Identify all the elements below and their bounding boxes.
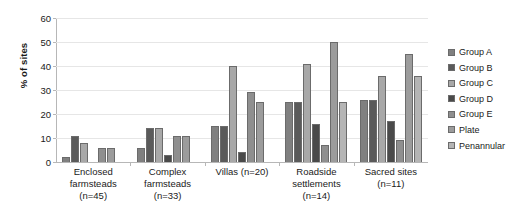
legend-item[interactable]: Group C bbox=[448, 78, 505, 88]
legend-item[interactable]: Group B bbox=[448, 63, 505, 73]
legend-swatch-icon bbox=[448, 64, 455, 71]
bar bbox=[330, 42, 338, 162]
bar bbox=[155, 128, 163, 162]
legend-label: Group A bbox=[459, 47, 492, 57]
bar bbox=[369, 100, 377, 162]
legend-swatch-icon bbox=[448, 142, 455, 149]
bar bbox=[137, 148, 145, 162]
legend: Group AGroup BGroup CGroup DGroup EPlate… bbox=[448, 47, 505, 151]
bar bbox=[220, 126, 228, 162]
legend-swatch-icon bbox=[448, 49, 455, 56]
bar bbox=[405, 54, 413, 162]
bar-group bbox=[130, 18, 204, 162]
y-tick-label: 30 bbox=[40, 85, 51, 96]
bar bbox=[256, 102, 264, 162]
legend-item[interactable]: Group E bbox=[448, 109, 505, 119]
bar bbox=[107, 148, 115, 162]
legend-swatch-icon bbox=[448, 95, 455, 102]
x-axis-label-line: (n=14) bbox=[279, 190, 353, 202]
bar bbox=[71, 136, 79, 162]
bar-chart: % of sites 0102030405060 Enclosedfarmste… bbox=[0, 0, 532, 223]
legend-label: Plate bbox=[459, 125, 480, 135]
y-tick-label: 20 bbox=[40, 109, 51, 120]
bar-groups bbox=[56, 18, 428, 162]
x-axis-label: Complexfarmsteads(n=33) bbox=[130, 166, 204, 202]
bar bbox=[294, 102, 302, 162]
bar bbox=[238, 152, 246, 162]
x-axis-label-line: farmsteads bbox=[56, 178, 130, 190]
legend-item[interactable]: Penannular bbox=[448, 141, 505, 151]
x-axis-label-line: Villas (n=20) bbox=[205, 166, 279, 178]
legend-swatch-icon bbox=[448, 80, 455, 87]
legend-swatch-icon bbox=[448, 126, 455, 133]
bar bbox=[303, 64, 311, 162]
y-axis-title: % of sites bbox=[18, 21, 29, 111]
y-tick-mark bbox=[53, 162, 56, 163]
bar bbox=[378, 76, 386, 162]
bar bbox=[229, 66, 237, 162]
legend-label: Group E bbox=[459, 109, 493, 119]
y-tick-label: 40 bbox=[40, 61, 51, 72]
y-tick-label: 10 bbox=[40, 133, 51, 144]
x-axis-labels: Enclosedfarmsteads(n=45)Complexfarmstead… bbox=[56, 166, 428, 202]
bar bbox=[285, 102, 293, 162]
bar-group bbox=[279, 18, 353, 162]
bar bbox=[173, 136, 181, 162]
bar-group bbox=[354, 18, 428, 162]
x-axis-label-line: (n=33) bbox=[130, 190, 204, 202]
bar bbox=[80, 143, 88, 162]
plot-area: 0102030405060 bbox=[56, 18, 428, 162]
y-tick-label: 50 bbox=[40, 37, 51, 48]
x-axis-label: Sacred sites(n=11) bbox=[354, 166, 428, 202]
bar bbox=[414, 76, 422, 162]
x-axis-label-line: Enclosed bbox=[56, 166, 130, 178]
bar bbox=[360, 100, 368, 162]
x-axis-label-line: settlements bbox=[279, 178, 353, 190]
bar bbox=[247, 92, 255, 162]
bar bbox=[146, 128, 154, 162]
bar-group bbox=[205, 18, 279, 162]
bar-group bbox=[56, 18, 130, 162]
bar bbox=[387, 121, 395, 162]
legend-label: Group C bbox=[459, 78, 493, 88]
x-axis-label-line: farmsteads bbox=[130, 178, 204, 190]
legend-label: Group B bbox=[459, 63, 493, 73]
y-tick-label: 0 bbox=[46, 157, 51, 168]
x-axis-label: Roadsidesettlements(n=14) bbox=[279, 166, 353, 202]
x-axis-label-line: (n=11) bbox=[354, 178, 428, 190]
bar bbox=[396, 140, 404, 162]
bar bbox=[321, 145, 329, 162]
legend-label: Penannular bbox=[459, 141, 505, 151]
x-axis-label: Villas (n=20) bbox=[205, 166, 279, 202]
legend-item[interactable]: Plate bbox=[448, 125, 505, 135]
y-tick-label: 60 bbox=[40, 13, 51, 24]
x-axis-label: Enclosedfarmsteads(n=45) bbox=[56, 166, 130, 202]
legend-item[interactable]: Group A bbox=[448, 47, 505, 57]
x-axis-label-line: Complex bbox=[130, 166, 204, 178]
bar bbox=[312, 124, 320, 162]
x-axis-label-line: Roadside bbox=[279, 166, 353, 178]
legend-label: Group D bbox=[459, 94, 493, 104]
x-axis-label-line: Sacred sites bbox=[354, 166, 428, 178]
legend-swatch-icon bbox=[448, 111, 455, 118]
x-axis-label-line: (n=45) bbox=[56, 190, 130, 202]
bar bbox=[62, 157, 70, 162]
bar bbox=[211, 126, 219, 162]
x-axis-line bbox=[56, 162, 428, 163]
bar bbox=[164, 155, 172, 162]
legend-item[interactable]: Group D bbox=[448, 94, 505, 104]
bar bbox=[98, 148, 106, 162]
bar bbox=[339, 102, 347, 162]
bar bbox=[182, 136, 190, 162]
